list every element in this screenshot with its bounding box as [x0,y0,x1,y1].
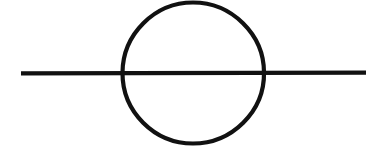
horizontal-line-group [21,73,366,74]
figure-canvas [0,0,384,147]
horizontal-diameter-line [21,73,366,74]
line-drawing-figure [0,0,384,147]
